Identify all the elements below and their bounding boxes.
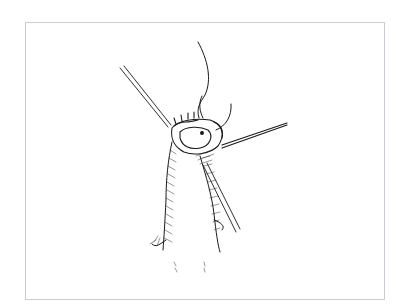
surgical-illustration (0, 0, 403, 305)
right-wire (222, 123, 287, 148)
opening-rim (172, 112, 223, 154)
tissue-body (152, 142, 223, 252)
suture-needle (198, 42, 231, 130)
